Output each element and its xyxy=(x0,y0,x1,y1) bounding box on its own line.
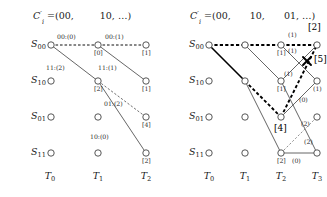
node-t2-s01[interactable] xyxy=(278,114,284,120)
node-t1-s10[interactable] xyxy=(242,78,248,84)
node-t2-s01[interactable] xyxy=(143,114,149,120)
edge-label-l1: 00:(1) xyxy=(105,33,124,40)
trellis-graph-left xyxy=(0,0,164,197)
node-t0-s00[interactable] xyxy=(48,42,54,48)
node-label-l5: [2] xyxy=(142,157,151,164)
node-label-l3: [1] xyxy=(142,85,151,92)
node-label-l2: [2] xyxy=(94,85,103,92)
node-t0-s10[interactable] xyxy=(48,78,54,84)
node-label-big-r1: [5] xyxy=(314,54,327,64)
edge-t1s00-t2s10 xyxy=(98,45,146,81)
edge-t1s10-t2s11 xyxy=(245,81,281,153)
node-t3-s00[interactable] xyxy=(314,42,320,48)
edge-label-l0: 00:(0) xyxy=(57,33,76,40)
edge-label-r5: (2) xyxy=(304,138,313,145)
edge-t2s01-t3s00-bold xyxy=(281,45,317,117)
node-t2-s11[interactable] xyxy=(143,150,149,156)
node-t2-s00[interactable] xyxy=(143,42,149,48)
edge-label-r3: (0) xyxy=(299,96,308,103)
node-label-big-r0: [2] xyxy=(308,22,321,32)
edge-label-l4: 01:(2) xyxy=(104,100,123,107)
node-t3-s11[interactable] xyxy=(314,150,320,156)
edge-label-l5: 10:(0) xyxy=(90,133,109,140)
edge-t1s10-t2s01-bold xyxy=(245,81,281,117)
edge-label-l2: 11:(2) xyxy=(46,64,65,71)
edge-t1s10-t2s11 xyxy=(98,81,146,153)
node-t0-s00[interactable] xyxy=(206,42,212,48)
node-label-r1: [1] xyxy=(277,85,286,92)
node-t1-s00[interactable] xyxy=(242,42,248,48)
node-t2-s11[interactable] xyxy=(278,150,284,156)
node-t0-s11[interactable] xyxy=(48,150,54,156)
node-t1-s11[interactable] xyxy=(242,150,248,156)
node-t0-s10[interactable] xyxy=(206,78,212,84)
edge-label-r4: (2) xyxy=(301,120,310,127)
node-t0-s01[interactable] xyxy=(48,114,54,120)
node-label-r2: [2] xyxy=(277,157,286,164)
node-t1-s00[interactable] xyxy=(95,42,101,48)
edge-t0s00-t1s10-bold xyxy=(209,45,245,81)
node-t3-s01[interactable] xyxy=(314,114,320,120)
edge-t1s00-t2s10 xyxy=(245,45,281,81)
node-t1-s11[interactable] xyxy=(95,150,101,156)
edge-label-r6: (0) xyxy=(292,157,301,164)
node-t2-s00[interactable] xyxy=(278,42,284,48)
node-t2-s10[interactable] xyxy=(278,78,284,84)
node-label-l4: [4] xyxy=(142,121,151,128)
node-label-big-r2: [4] xyxy=(274,123,287,133)
node-label-l1: [1] xyxy=(142,49,151,56)
edge-label-r0: (1) xyxy=(288,31,297,38)
node-t0-s01[interactable] xyxy=(206,114,212,120)
trellis-panel-right: C′i =(00,10,01, …) S00 S10 S01 S11 T0 T1… xyxy=(164,0,327,197)
node-t1-s01[interactable] xyxy=(95,114,101,120)
trellis-figure: C′i =(00,10, …) S00 S10 S01 S11 T0 T1 T2 xyxy=(0,0,327,197)
node-t1-s01[interactable] xyxy=(242,114,248,120)
node-label-r3: (1) xyxy=(313,85,322,92)
node-label-r0: [1] xyxy=(277,49,286,56)
edge-t0s00-t1s10 xyxy=(51,45,98,81)
node-t0-s11[interactable] xyxy=(206,150,212,156)
x-mark-icon xyxy=(303,57,311,65)
edge-t1s10-t2s01 xyxy=(98,81,146,117)
trellis-panel-left: C′i =(00,10, …) S00 S10 S01 S11 T0 T1 T2 xyxy=(0,0,164,197)
edge-label-r1: (1) xyxy=(288,47,297,54)
node-t1-s10[interactable] xyxy=(95,78,101,84)
node-t2-s10[interactable] xyxy=(143,78,149,84)
node-t3-s10[interactable] xyxy=(314,78,320,84)
node-label-l0: [0] xyxy=(94,49,103,56)
edge-label-r2: (1) xyxy=(284,70,293,77)
edge-label-l3: 11:(1) xyxy=(98,64,117,71)
